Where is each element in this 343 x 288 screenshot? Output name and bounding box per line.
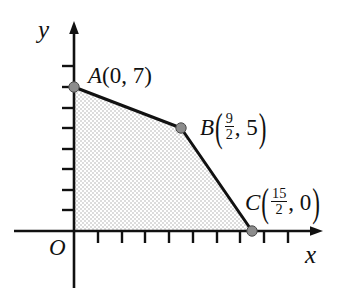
point-a-comma: , [121, 63, 133, 88]
point-c-label: C(152, 0) [245, 187, 321, 218]
point-c-x-fraction: 152 [271, 186, 287, 217]
point-a-close-paren: ) [144, 63, 152, 88]
point-a-x: 0 [110, 63, 122, 88]
point-b-x-denominator: 2 [225, 127, 234, 142]
point-a-name: A [88, 63, 102, 88]
x-axis-ticks [98, 231, 288, 243]
point-b-comma: , [235, 116, 247, 139]
point-a-y: 7 [133, 63, 145, 88]
point-b-open-paren: ( [214, 107, 224, 147]
point-b-marker [176, 123, 186, 133]
y-axis-label: y [38, 17, 49, 42]
point-b-x-fraction: 92 [225, 111, 234, 142]
point-c-y: 0 [300, 191, 312, 214]
origin-label: O [49, 236, 66, 259]
point-b-y: 5 [246, 116, 258, 139]
point-a-label: A(0, 7) [88, 64, 152, 87]
point-b-x-numerator: 9 [225, 111, 234, 127]
point-b-name: B [200, 116, 214, 139]
point-a-marker [69, 82, 79, 92]
point-b-close-paren: ) [258, 107, 268, 147]
point-c-x-numerator: 15 [271, 186, 287, 202]
point-c-close-paren: ) [311, 182, 321, 222]
point-c-open-paren: ( [260, 182, 270, 222]
shaded-region [74, 87, 252, 231]
point-c-x-denominator: 2 [271, 202, 287, 217]
point-c-name: C [245, 191, 260, 214]
point-a-open-paren: ( [102, 63, 110, 88]
point-b-label: B(92, 5) [200, 112, 268, 143]
point-c-marker [247, 226, 257, 236]
point-c-comma: , [288, 191, 300, 214]
x-axis-label: x [305, 242, 316, 267]
